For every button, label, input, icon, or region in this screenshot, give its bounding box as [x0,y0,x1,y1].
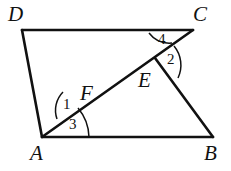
segment-EB [155,58,213,137]
vertex-label-F: F [80,83,93,104]
vertex-label-E: E [138,70,151,91]
vertex-label-C: C [193,4,207,25]
angle-arc-3 [78,108,89,137]
angle-label-2: 2 [167,52,175,67]
geometry-figure: D C A B F E 1 2 3 4 [0,0,231,171]
vertex-label-B: B [204,143,217,164]
angle-arc-2 [174,46,181,78]
vertex-label-D: D [8,4,23,25]
angle-arc-1 [55,92,63,119]
angle-label-4: 4 [158,32,166,47]
segment-AC [42,30,193,137]
angle-label-1: 1 [63,97,71,112]
vertex-label-A: A [30,143,43,164]
angle-label-3: 3 [69,117,77,132]
segment-DA [22,30,42,137]
